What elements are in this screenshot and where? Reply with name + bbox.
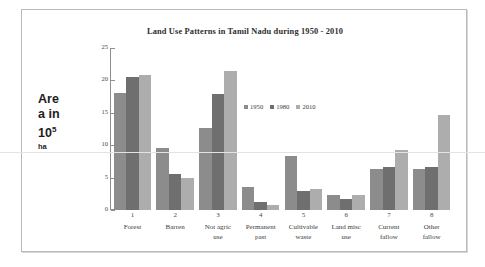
x-axis-category-label: Permanent: [239, 223, 282, 233]
bar: [139, 75, 152, 210]
bar: [169, 174, 182, 210]
bar: [114, 93, 127, 210]
legend-swatch: [296, 105, 300, 109]
y-axis-tick-label: 5: [105, 173, 108, 180]
x-axis-category: 3Not agricuse: [197, 211, 240, 242]
x-axis-category-number: 5: [282, 211, 325, 220]
bar: [438, 115, 451, 210]
bar-group: [285, 48, 323, 210]
bar: [425, 167, 438, 210]
bar: [199, 128, 212, 210]
bar: [297, 191, 310, 210]
y-axis-label-base: 10: [38, 126, 52, 140]
bar: [267, 205, 280, 210]
bar: [212, 94, 225, 210]
y-axis-tick-label: 0: [105, 205, 108, 212]
bar-group: [370, 48, 408, 210]
y-axis-tick-label: 10: [101, 140, 108, 147]
y-axis-label-exponent: 5: [52, 125, 56, 134]
x-axis-category-label: Forest: [111, 223, 154, 233]
y-axis-tick-label: 15: [101, 108, 108, 115]
x-axis-category-number: 4: [239, 211, 282, 220]
bar-group: [327, 48, 365, 210]
x-axis-category-label: waste: [282, 233, 325, 243]
x-axis-category: 1Forest: [111, 211, 154, 233]
y-axis-label-line-2: a in: [38, 107, 84, 122]
bar: [156, 148, 169, 210]
bar-group: [242, 48, 280, 210]
x-axis-category-label: fallow: [368, 233, 411, 243]
bar: [327, 195, 340, 210]
bar: [181, 178, 194, 210]
y-axis-label-unit: ha: [38, 141, 84, 152]
x-axis-category-label: Barren: [154, 223, 197, 233]
bar-group: [199, 48, 237, 210]
bar-group: [156, 48, 194, 210]
legend-label: 1950: [250, 103, 263, 110]
bar: [413, 169, 426, 210]
bar-group: [413, 48, 451, 210]
bar: [340, 199, 353, 210]
legend-label: 1980: [276, 103, 289, 110]
x-axis-category: 7Currentfallow: [368, 211, 411, 242]
bar: [395, 150, 408, 210]
x-axis-category-label: Cultivable: [282, 223, 325, 233]
bars-area: [111, 48, 453, 210]
x-axis-category: 5Cultivablewaste: [282, 211, 325, 242]
chart-legend: 195019802010: [244, 103, 316, 110]
x-axis-category-number: 8: [410, 211, 453, 220]
bar-group: [114, 48, 152, 210]
legend-item: 2010: [296, 103, 315, 110]
x-axis-category: 8Otherfallow: [410, 211, 453, 242]
x-axis-category-label: past: [239, 233, 282, 243]
chart-frame: Land Use Patterns in Tamil Nadu during 1…: [21, 9, 467, 252]
bar: [370, 169, 383, 210]
x-axis-category-number: 2: [154, 211, 197, 220]
y-axis-label: Are a in 105 ha: [38, 92, 84, 152]
bar: [383, 167, 396, 210]
y-axis-label-line-3: 105: [38, 122, 84, 141]
x-axis-category-label: Current: [368, 223, 411, 233]
x-axis-category-label: Not agric: [197, 223, 240, 233]
bar: [224, 71, 237, 210]
x-axis-labels: 1Forest2Barren3Not agricuse4Permanentpas…: [111, 211, 453, 255]
bar: [352, 195, 365, 210]
bar: [126, 77, 139, 210]
legend-swatch: [270, 105, 274, 109]
y-axis-label-line-1: Are: [38, 92, 84, 107]
x-axis-category-number: 6: [325, 211, 368, 220]
bar: [310, 189, 323, 210]
x-axis-category-label: fallow: [410, 233, 453, 243]
x-axis-category: 2Barren: [154, 211, 197, 233]
x-axis-category-number: 7: [368, 211, 411, 220]
bar: [254, 202, 267, 210]
x-axis-category-label: Other: [410, 223, 453, 233]
x-axis-category: 6Land miscuse: [325, 211, 368, 242]
y-axis-tick-label: 20: [101, 75, 108, 82]
x-axis-category-label: use: [325, 233, 368, 243]
x-axis-category: 4Permanentpast: [239, 211, 282, 242]
bar: [285, 156, 298, 210]
x-axis-category-number: 3: [197, 211, 240, 220]
chart-title: Land Use Patterns in Tamil Nadu during 1…: [22, 27, 468, 36]
x-axis-category-label: Land misc: [325, 223, 368, 233]
bar: [242, 187, 255, 210]
x-axis-category-number: 1: [111, 211, 154, 220]
y-axis-tick-label: 25: [101, 43, 108, 50]
legend-item: 1980: [270, 103, 289, 110]
legend-label: 2010: [302, 103, 315, 110]
plot-area: 0510152025: [88, 48, 453, 210]
x-axis-category-label: use: [197, 233, 240, 243]
legend-swatch: [244, 105, 248, 109]
legend-item: 1950: [244, 103, 263, 110]
